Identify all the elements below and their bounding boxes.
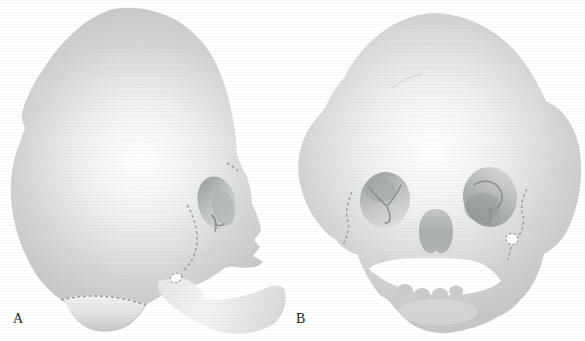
panel-label-a: A <box>13 311 24 327</box>
mandible <box>158 278 286 334</box>
skull-lateral-illustration <box>11 8 286 334</box>
cranium-silhouette <box>11 8 263 332</box>
skull-diagram-canvas <box>0 0 585 341</box>
skull-frontal-illustration <box>298 13 581 333</box>
occipital-bone <box>64 295 145 331</box>
chin-highlight <box>398 299 478 325</box>
nasal-aperture <box>419 209 453 253</box>
panel-label-b: B <box>296 311 306 327</box>
